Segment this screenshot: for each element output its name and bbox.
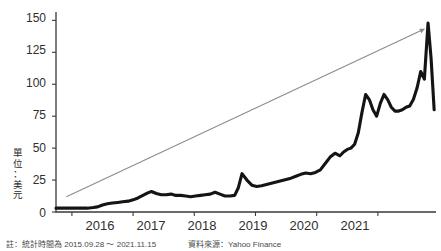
footnote-period: 註：統計時間為 2015.09.28 ～ 2021.11.15 [6,238,156,249]
chart-figure: 單 位 ： 美 元 150 125 100 75 50 25 0 2016 20… [0,0,441,251]
plot-area [0,0,441,251]
footnote-source: 資料來源：Yahoo Finance [188,238,281,249]
growth-trend-arrow [66,29,423,196]
